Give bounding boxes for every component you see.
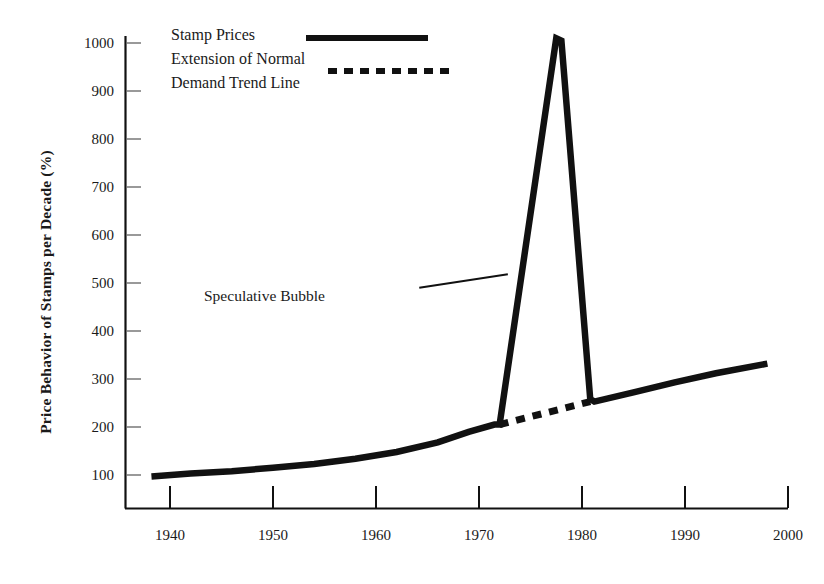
y-tick-marks (126, 43, 141, 475)
plot-area (0, 0, 824, 584)
chart-figure: Price Behavior of Stamps per Decade (%) … (0, 0, 824, 584)
x-tick-marks (170, 486, 788, 508)
series-stamp-prices (151, 38, 767, 476)
annotation-leader-line (419, 274, 508, 287)
series-trend-line-dotted (500, 402, 591, 425)
